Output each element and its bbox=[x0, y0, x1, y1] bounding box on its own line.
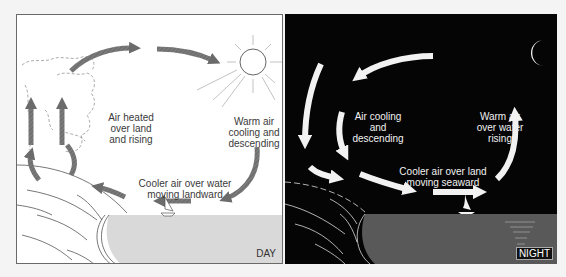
label-cooler-air-landward: Cooler air over water moving landward bbox=[135, 178, 235, 200]
label-cooler-air-seaward: Cooler air over land moving seaward bbox=[393, 166, 493, 188]
arrow-descending-center bbox=[339, 112, 345, 154]
label-warm-air-rising: Warm air over water rising bbox=[470, 111, 530, 144]
night-panel: Air cooling and descending Warm air over… bbox=[285, 14, 557, 264]
night-tag: NIGHT bbox=[516, 247, 553, 260]
label-air-cooling-descending: Air cooling and descending bbox=[348, 111, 408, 144]
arrow-seaward-1 bbox=[310, 167, 337, 178]
arrow-curve bbox=[67, 145, 74, 175]
arrow-upper-left bbox=[71, 48, 135, 71]
moon-icon bbox=[531, 40, 545, 66]
sun-icon bbox=[197, 35, 283, 107]
label-air-heated-rising: Air heated over land and rising bbox=[100, 112, 162, 145]
arrow-upper bbox=[358, 56, 433, 77]
arrow-descending-left bbox=[305, 64, 321, 142]
arrow-landward-2 bbox=[97, 187, 125, 197]
label-warm-air-descending: Warm air cooling and descending bbox=[222, 116, 283, 149]
sailboat-icon bbox=[458, 194, 475, 214]
day-tag: DAY bbox=[254, 248, 278, 259]
arrow-upper-right bbox=[157, 49, 215, 61]
shoreline bbox=[285, 182, 370, 264]
day-panel: Air heated over land and rising Warm air… bbox=[16, 14, 283, 264]
